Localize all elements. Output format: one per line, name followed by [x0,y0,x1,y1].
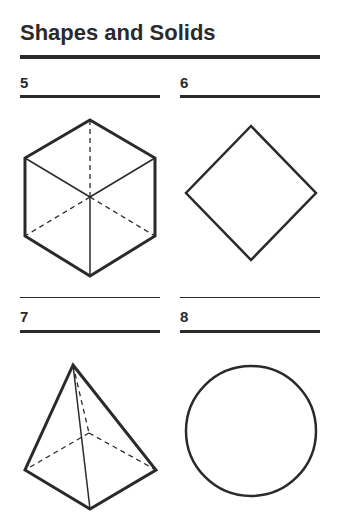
square-shape [186,126,316,260]
cube-shape [25,120,155,276]
circle-shape [186,366,316,496]
pyramid-shape [25,365,156,509]
shapes-canvas [0,0,338,529]
